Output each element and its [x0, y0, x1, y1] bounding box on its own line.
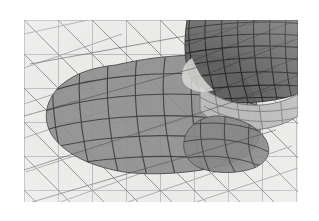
figure-root: [0, 0, 319, 221]
surface-plot: [24, 20, 298, 202]
figure-frame: [24, 20, 298, 202]
